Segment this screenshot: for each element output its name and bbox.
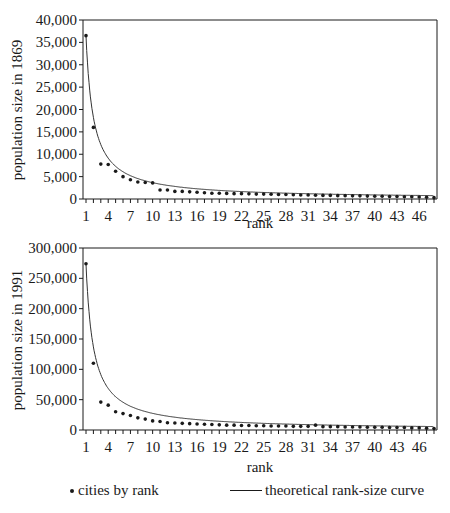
city-point (210, 423, 214, 427)
city-point (403, 426, 407, 430)
x-tick-label: 28 (278, 439, 293, 455)
city-point (84, 34, 88, 38)
x-tick-label: 40 (367, 208, 382, 224)
city-point (358, 194, 362, 198)
legend-item-curve: theoretical rank-size curve (230, 482, 424, 499)
y-axis-label: population size in 1991 (9, 270, 25, 410)
city-point (195, 422, 199, 426)
city-point (425, 195, 429, 199)
city-point (292, 425, 296, 429)
y-tick-label: 10,000 (36, 146, 77, 162)
chart-1991: population size in 1991 050,000100,00015… (0, 232, 450, 482)
y-tick-label: 250,000 (28, 270, 77, 286)
plot-frame (83, 248, 437, 430)
city-point (380, 195, 384, 199)
x-tick-label: 43 (389, 439, 404, 455)
x-tick-label: 34 (323, 208, 339, 224)
x-tick-label: 28 (278, 208, 293, 224)
city-point (217, 191, 221, 195)
x-axis-ticks: 14710131619222528313437404346 (82, 430, 434, 455)
y-tick-label: 150,000 (28, 331, 77, 347)
x-tick-label: 43 (389, 208, 404, 224)
y-tick-label: 35,000 (36, 34, 77, 50)
x-tick-label: 19 (212, 208, 227, 224)
plot-frame (83, 20, 437, 199)
city-point (366, 425, 370, 429)
city-point (351, 425, 355, 429)
x-tick-label: 40 (367, 439, 382, 455)
legend-curve-label: theoretical rank-size curve (265, 482, 424, 499)
y-axis-title: population size in 1869 (9, 40, 25, 180)
city-point (232, 192, 236, 196)
city-point (284, 424, 288, 428)
city-point (417, 426, 421, 430)
x-tick-label: 25 (256, 439, 271, 455)
city-point (254, 192, 258, 196)
city-point (188, 422, 192, 426)
city-point (366, 194, 370, 198)
legend: cities by rank theoretical rank-size cur… (0, 482, 450, 506)
x-tick-label: 34 (323, 439, 339, 455)
city-point (262, 192, 266, 196)
city-point (351, 194, 355, 198)
city-point (151, 181, 155, 185)
city-point (343, 425, 347, 429)
x-axis-label: rank (247, 459, 274, 475)
y-axis-title: population size in 1991 (9, 270, 25, 410)
city-point (121, 412, 125, 416)
city-point (388, 426, 392, 430)
y-tick-label: 30,000 (36, 57, 77, 73)
city-point (277, 424, 281, 428)
x-tick-label: 1 (82, 208, 90, 224)
city-point (114, 169, 118, 173)
y-tick-label: 50,000 (36, 392, 77, 408)
city-point (329, 194, 333, 198)
city-point (432, 427, 436, 431)
city-point (136, 416, 140, 420)
city-point (114, 410, 118, 414)
city-point (143, 181, 147, 185)
city-point (284, 193, 288, 197)
city-point (343, 194, 347, 198)
x-tick-label: 31 (301, 208, 316, 224)
city-point (269, 193, 273, 197)
legend-item-points: cities by rank (70, 482, 159, 499)
city-point (395, 426, 399, 430)
city-point (232, 423, 236, 427)
x-tick-label: 46 (412, 439, 428, 455)
city-point (92, 361, 96, 365)
city-point (129, 414, 133, 418)
city-point (136, 180, 140, 184)
city-point (203, 422, 207, 426)
city-point (314, 423, 318, 427)
city-point (106, 163, 110, 167)
city-point (277, 193, 281, 197)
y-tick-label: 300,000 (28, 240, 77, 256)
y-axis-ticks: 05,00010,00015,00020,00025,00030,00035,0… (36, 12, 83, 207)
x-tick-label: 13 (167, 439, 182, 455)
y-tick-label: 15,000 (36, 124, 77, 140)
city-point (262, 424, 266, 428)
y-tick-label: 20,000 (36, 102, 77, 118)
x-tick-label: 16 (190, 208, 206, 224)
city-point (158, 188, 162, 192)
city-point (314, 193, 318, 197)
city-point (129, 178, 133, 182)
y-tick-label: 40,000 (36, 12, 77, 28)
city-point (210, 191, 214, 195)
y-tick-label: 5,000 (43, 169, 77, 185)
x-tick-label: 10 (145, 439, 160, 455)
city-point (425, 426, 429, 430)
city-point (180, 190, 184, 194)
city-point (240, 192, 244, 196)
city-point (380, 425, 384, 429)
city-point (180, 422, 184, 426)
city-point (225, 423, 229, 427)
city-point (410, 426, 414, 430)
city-point (306, 193, 310, 197)
city-point (173, 421, 177, 425)
city-points (84, 262, 436, 430)
line-icon (230, 490, 262, 491)
rank-size-curve (86, 264, 433, 427)
city-point (336, 425, 340, 429)
